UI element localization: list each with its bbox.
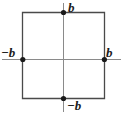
vertex-marker-left: [20, 57, 25, 62]
axis-label-bottom: −b: [67, 99, 81, 112]
square-axes-figure: b −b b −b: [0, 0, 125, 118]
axis-label-top: b: [68, 1, 74, 14]
vertex-marker-bottom: [61, 96, 66, 101]
vertex-marker-top: [61, 10, 66, 15]
axis-label-left: −b: [1, 46, 15, 59]
axis-label-right: b: [106, 46, 112, 59]
